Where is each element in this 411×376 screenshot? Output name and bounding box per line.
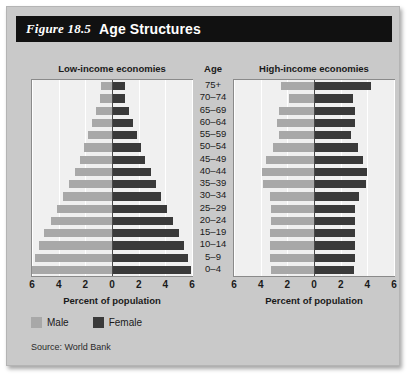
gridline: [394, 80, 395, 276]
bar-male: [101, 82, 112, 90]
pyramid-plot-low-income: [31, 79, 193, 277]
bar-female: [314, 107, 355, 115]
age-group-label: 40–44: [195, 165, 231, 177]
x-axis-caption-high-income: Percent of population: [233, 295, 395, 306]
source-note: Source: World Bank: [31, 342, 111, 352]
bar-female: [112, 168, 151, 176]
bar-female: [112, 229, 179, 237]
age-group-label: 25–29: [195, 202, 231, 214]
bar-female: [112, 82, 125, 90]
bar-female: [112, 217, 173, 225]
age-group-label: 60–64: [195, 116, 231, 128]
age-label-column: 75+70–7465–6960–6455–5950–5445–4940–4435…: [195, 79, 231, 277]
bar-female: [112, 131, 137, 139]
bar-male: [281, 82, 314, 90]
bar-female: [314, 241, 355, 249]
legend-label-female: Female: [109, 317, 142, 328]
bar-male: [279, 107, 314, 115]
x-axis-ticks-high-income: 6420246: [233, 279, 395, 292]
bar-female: [314, 205, 355, 213]
bar-male: [100, 94, 112, 102]
bar-male: [88, 131, 112, 139]
bar-male: [271, 217, 314, 225]
bar-male: [277, 119, 314, 127]
bar-male: [279, 131, 314, 139]
bar-male: [270, 241, 314, 249]
age-group-label: 65–69: [195, 104, 231, 116]
x-axis-tick-label: 6: [184, 279, 200, 290]
x-axis-ticks-low-income: 6420246: [31, 279, 193, 292]
gridline: [192, 80, 193, 276]
bar-female: [112, 241, 184, 249]
bar-female: [314, 82, 371, 90]
bar-female: [314, 254, 355, 262]
legend-entry-female: Female: [93, 317, 142, 328]
bar-female: [112, 205, 167, 213]
bar-male: [44, 229, 112, 237]
bar-male: [289, 94, 314, 102]
age-group-label: 30–34: [195, 189, 231, 201]
x-axis-caption-low-income: Percent of population: [31, 295, 193, 306]
bar-male: [39, 241, 112, 249]
age-group-label: 10–14: [195, 238, 231, 250]
bar-male: [84, 143, 112, 151]
figure-title: Age Structures: [99, 21, 201, 37]
bar-male: [75, 168, 112, 176]
bar-female: [314, 156, 363, 164]
bar-male: [96, 107, 112, 115]
bar-male: [35, 254, 112, 262]
x-axis-tick-label: 6: [386, 279, 400, 290]
x-axis-tick-label: 6: [226, 279, 242, 290]
age-column-header: Age: [195, 63, 231, 74]
bar-female: [112, 254, 188, 262]
x-axis-tick-label: 2: [333, 279, 349, 290]
bar-male: [271, 205, 314, 213]
bar-female: [314, 143, 358, 151]
age-group-label: 70–74: [195, 91, 231, 103]
bar-female: [112, 94, 125, 102]
x-axis-tick-label: 2: [131, 279, 147, 290]
age-group-label: 20–24: [195, 214, 231, 226]
age-group-label: 50–54: [195, 140, 231, 152]
x-axis-tick-label: 4: [51, 279, 67, 290]
bar-male: [270, 192, 314, 200]
x-axis-tick-label: 0: [306, 279, 322, 290]
bar-male: [92, 119, 112, 127]
bar-female: [314, 94, 353, 102]
bar-male: [273, 143, 314, 151]
age-group-label: 45–49: [195, 153, 231, 165]
legend-swatch-male: [31, 317, 42, 328]
bar-male: [266, 156, 314, 164]
legend-swatch-female: [93, 317, 104, 328]
bar-female: [112, 107, 129, 115]
bar-male: [270, 254, 314, 262]
age-group-label: 55–59: [195, 128, 231, 140]
panel-header-low-income: Low-income economies: [31, 63, 193, 74]
bar-female: [314, 119, 355, 127]
age-group-label: 0–4: [195, 263, 231, 275]
figure-card: Figure 18.5 Age Structures Low-income ec…: [6, 6, 400, 366]
bar-female: [314, 168, 367, 176]
bar-male: [63, 192, 112, 200]
bar-male: [51, 217, 112, 225]
legend-entry-male: Male: [31, 317, 69, 328]
zero-axis-line: [314, 80, 315, 276]
bar-female: [314, 131, 351, 139]
bar-female: [314, 266, 354, 274]
bar-female: [112, 180, 156, 188]
bar-female: [314, 180, 366, 188]
x-axis-tick-label: 6: [24, 279, 40, 290]
bar-female: [112, 143, 141, 151]
legend-label-male: Male: [47, 317, 69, 328]
bar-male: [69, 180, 112, 188]
pyramid-plot-high-income: [233, 79, 395, 277]
figure-number: Figure 18.5: [26, 21, 91, 37]
age-group-label: 35–39: [195, 177, 231, 189]
bar-female: [314, 192, 359, 200]
chart-legend: Male Female: [31, 317, 158, 328]
x-axis-tick-label: 2: [77, 279, 93, 290]
x-axis-tick-label: 4: [253, 279, 269, 290]
bar-female: [112, 192, 161, 200]
bar-male: [80, 156, 112, 164]
bar-female: [112, 266, 191, 274]
